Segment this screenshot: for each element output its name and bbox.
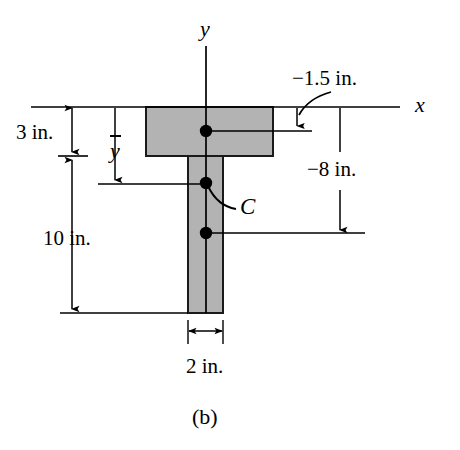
y-axis-label: y <box>200 18 210 40</box>
centroid-label: C <box>240 195 255 218</box>
dimension-label-flange-thickness: 3 in. <box>16 122 53 143</box>
ybar-overbar <box>110 135 121 137</box>
dimension-label-web-depth: 10 in. <box>43 228 91 249</box>
figure-container: y x 3 in. 10 in. 2 in. y −1.5 in. −8 in.… <box>0 0 460 450</box>
dimension-label-offset-bottom: −8 in. <box>307 159 356 180</box>
dimension-3in <box>58 108 88 309</box>
ybar-glyph: y <box>103 138 127 164</box>
cross-section-drawing <box>0 0 460 450</box>
section-centroid-dot <box>200 177 212 189</box>
dimension-label-offset-top: −1.5 in. <box>292 68 357 89</box>
dimension-label-web-width: 2 in. <box>186 356 223 377</box>
dimension-2in <box>188 320 223 344</box>
figure-caption: (b) <box>192 406 218 428</box>
dimension-label-ybar: y <box>103 135 127 164</box>
x-axis-label: x <box>415 94 425 116</box>
